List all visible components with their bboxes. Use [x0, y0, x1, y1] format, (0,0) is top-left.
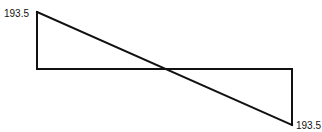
- right-value-label: 193.5: [296, 120, 321, 131]
- shear-force-diagram: 193.5 193.5: [0, 0, 322, 132]
- left-value-label: 193.5: [4, 8, 29, 19]
